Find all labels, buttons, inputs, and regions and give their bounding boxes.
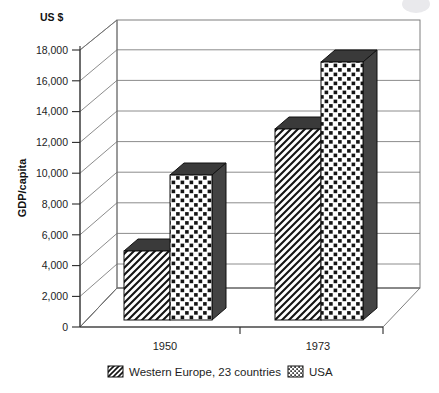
y-tick-labels: 18,000 16,000 14,000 12,000 10,000 8,000… [36, 44, 68, 333]
gdp-per-capita-3d-bar-chart: 18,000 16,000 14,000 12,000 10,000 8,000… [0, 0, 439, 393]
hatch-swatch-icon [108, 366, 123, 377]
y-tick-label: 2,000 [42, 290, 68, 302]
y-tick-label: 14,000 [36, 105, 68, 117]
axis-unit-label: US $ [40, 11, 64, 23]
y-tick-label: 10,000 [36, 167, 68, 179]
legend-item-usa[interactable]: USA [288, 366, 333, 378]
legend-label-western-europe: Western Europe, 23 countries [129, 366, 281, 378]
y-axis-title: GDP/capita [16, 158, 28, 218]
legend-label-usa: USA [309, 366, 333, 378]
scan-artifact [402, 0, 430, 13]
bar-1950-usa[interactable] [170, 163, 226, 320]
dots-swatch-icon [288, 366, 303, 377]
chart-legend: Western Europe, 23 countries USA [108, 366, 333, 378]
chart-container: 18,000 16,000 14,000 12,000 10,000 8,000… [0, 0, 439, 393]
y-axis [72, 46, 80, 327]
y-tick-label: 0 [62, 321, 68, 333]
y-tick-label: 8,000 [42, 198, 68, 210]
y-tick-label: 12,000 [36, 136, 68, 148]
y-tick-label: 6,000 [42, 229, 68, 241]
y-tick-label: 18,000 [36, 44, 68, 56]
depth-rails [80, 20, 117, 327]
bar-1973-usa[interactable] [321, 50, 377, 320]
y-tick-label: 16,000 [36, 75, 68, 87]
legend-item-western-europe[interactable]: Western Europe, 23 countries [108, 366, 281, 378]
x-axis [80, 327, 383, 334]
y-tick-label: 4,000 [42, 259, 68, 271]
x-tick-label-1973: 1973 [306, 340, 330, 352]
x-tick-label-1950: 1950 [153, 340, 177, 352]
